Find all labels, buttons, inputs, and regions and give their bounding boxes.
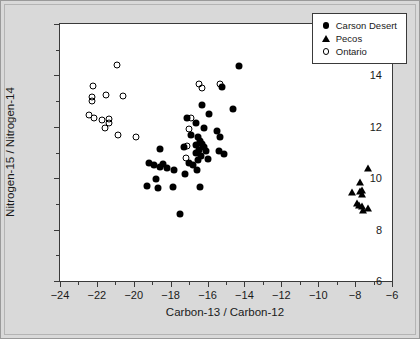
data-point-ontario [199, 85, 206, 92]
x-tick-minor [374, 281, 375, 285]
data-point-ontario [132, 134, 139, 141]
data-point-ontario [184, 143, 191, 150]
data-point-ontario [114, 62, 121, 69]
x-tick-label: −16 [198, 289, 217, 301]
x-tick-major [208, 281, 209, 287]
legend-item[interactable]: Pecos [319, 32, 397, 45]
y-axis-title: Nitrogen-15 / Nitrogen-14 [1, 23, 19, 280]
data-point-carson [152, 176, 159, 183]
data-point-ontario [183, 154, 190, 161]
data-point-ontario [91, 114, 98, 121]
scatter-plot-figure: Nitrogen-15 / Nitrogen-14 6810121416−24−… [0, 0, 420, 339]
y-axis-title-text: Nitrogen-15 / Nitrogen-14 [4, 87, 16, 217]
legend-marker-filled-circle-icon [319, 22, 333, 29]
data-point-ontario [217, 81, 224, 88]
x-tick-minor [337, 281, 338, 285]
data-point-carson [230, 105, 237, 112]
x-tick-major [392, 281, 393, 287]
data-point-carson [235, 63, 242, 70]
x-tick-label: −24 [51, 289, 70, 301]
data-point-pecos [359, 207, 367, 214]
legend-item-label: Pecos [336, 33, 362, 44]
data-point-carson [195, 157, 202, 164]
x-tick-minor [263, 281, 264, 285]
x-tick-label: −12 [272, 289, 291, 301]
data-point-ontario [102, 125, 109, 132]
data-point-ontario [103, 91, 110, 98]
data-point-carson [143, 182, 150, 189]
x-tick-major [244, 281, 245, 287]
data-point-carson [169, 184, 176, 191]
x-axis-title: Carbon-13 / Carbon-12 [59, 306, 391, 318]
data-point-ontario [186, 126, 193, 133]
data-point-carson [156, 145, 163, 152]
x-tick-major [60, 281, 61, 287]
legend-item-label: Ontario [336, 46, 367, 57]
data-point-carson [163, 164, 170, 171]
x-tick-label: −20 [124, 289, 143, 301]
legend-item[interactable]: Carson Desert [319, 19, 397, 32]
x-tick-major [171, 281, 172, 287]
x-tick-major [281, 281, 282, 287]
data-point-carson [206, 110, 213, 117]
x-tick-label: −8 [349, 289, 362, 301]
x-tick-minor [226, 281, 227, 285]
legend-marker-filled-triangle-icon [319, 35, 333, 42]
data-point-carson [200, 125, 207, 132]
x-tick-label: −10 [309, 289, 328, 301]
data-point-ontario [89, 98, 96, 105]
legend-item[interactable]: Ontario [319, 45, 397, 58]
data-point-ontario [187, 114, 194, 121]
data-point-carson [194, 167, 201, 174]
legend: Carson DesertPecosOntario [312, 13, 407, 64]
x-tick-minor [300, 281, 301, 285]
data-point-carson [154, 185, 161, 192]
legend-item-label: Carson Desert [336, 20, 397, 31]
data-point-carson [199, 101, 206, 108]
x-tick-minor [115, 281, 116, 285]
x-tick-label: −14 [235, 289, 254, 301]
x-tick-major [318, 281, 319, 287]
data-point-ontario [115, 131, 122, 138]
data-point-pecos [356, 179, 364, 186]
x-tick-major [355, 281, 356, 287]
data-point-carson [193, 119, 200, 126]
data-point-carson [204, 155, 211, 162]
data-point-ontario [90, 82, 97, 89]
x-tick-label: −18 [161, 289, 180, 301]
data-point-carson [197, 184, 204, 191]
data-point-carson [176, 211, 183, 218]
data-point-carson [171, 167, 178, 174]
x-tick-minor [189, 281, 190, 285]
data-point-ontario [119, 92, 126, 99]
x-tick-label: −6 [386, 289, 399, 301]
x-tick-minor [78, 281, 79, 285]
legend-marker-open-circle-icon [319, 48, 333, 55]
x-tick-major [97, 281, 98, 287]
x-tick-major [134, 281, 135, 287]
data-point-carson [217, 134, 224, 141]
data-point-pecos [364, 164, 372, 171]
x-tick-minor [152, 281, 153, 285]
x-tick-label: −22 [88, 289, 107, 301]
data-point-pecos [358, 186, 366, 193]
data-point-carson [221, 150, 228, 157]
data-point-carson [182, 171, 189, 178]
